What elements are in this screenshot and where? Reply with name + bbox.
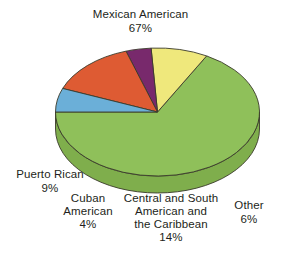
pie-label-puerto-rican-text: Puerto Rican xyxy=(16,168,84,180)
pie-label-puerto-rican: Puerto Rican 9% xyxy=(2,168,98,195)
pie-label-other-value: 6% xyxy=(222,213,276,227)
pie-label-cuban-american-text-2: American xyxy=(63,205,112,217)
pie-label-mexican-american-value: 67% xyxy=(0,22,281,36)
pie-label-mexican-american: Mexican American 67% xyxy=(0,8,281,35)
pie-label-other: Other 6% xyxy=(222,199,276,226)
pie-label-cuban-american-text-1: Cuban xyxy=(71,192,105,204)
pie-label-other-text: Other xyxy=(234,199,263,211)
pie-label-mexican-american-text: Mexican American xyxy=(93,8,189,20)
pie-label-central-south-american-text-1: Central and South xyxy=(124,192,218,204)
pie-label-central-south-american-value: 14% xyxy=(114,231,228,244)
pie-label-central-south-american-text-2: American and xyxy=(135,205,207,217)
pie-label-central-south-american-text-3: the Caribbean xyxy=(134,218,208,230)
pie-label-central-south-american: Central and South American and the Carib… xyxy=(114,192,228,244)
pie-chart-figure: Mexican American 67% Puerto Rican 9% Cub… xyxy=(0,0,281,273)
